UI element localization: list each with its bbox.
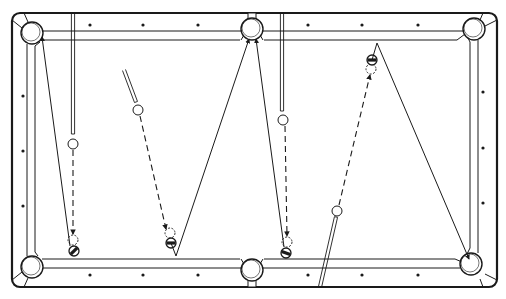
diamond-marker	[196, 273, 199, 276]
diamond-marker	[21, 94, 24, 97]
billiards-diagram: Pool table shot diagram	[0, 0, 506, 299]
diamond-marker	[88, 23, 91, 26]
cue-ball	[133, 105, 143, 115]
diamond-marker	[141, 273, 144, 276]
pool-table	[0, 0, 506, 299]
ghost-ball	[165, 228, 175, 238]
table-frame	[12, 13, 497, 287]
table-outer-edge	[12, 13, 497, 287]
diamond-marker	[416, 273, 419, 276]
diamond-marker	[196, 23, 199, 26]
cue-ball	[68, 139, 78, 149]
diamond-marker	[360, 273, 363, 276]
cue-ball	[332, 206, 342, 216]
diamond-marker	[360, 23, 363, 26]
diamond-marker	[141, 23, 144, 26]
diamond-marker	[481, 90, 484, 93]
diamond-marker	[306, 273, 309, 276]
diamond-marker	[21, 149, 24, 152]
diamond-marker	[416, 23, 419, 26]
diamond-marker	[88, 273, 91, 276]
diamond-marker	[481, 146, 484, 149]
diamond-marker	[481, 201, 484, 204]
diamond-marker	[21, 204, 24, 207]
cue-ball	[278, 115, 288, 125]
diamond-marker	[306, 23, 309, 26]
